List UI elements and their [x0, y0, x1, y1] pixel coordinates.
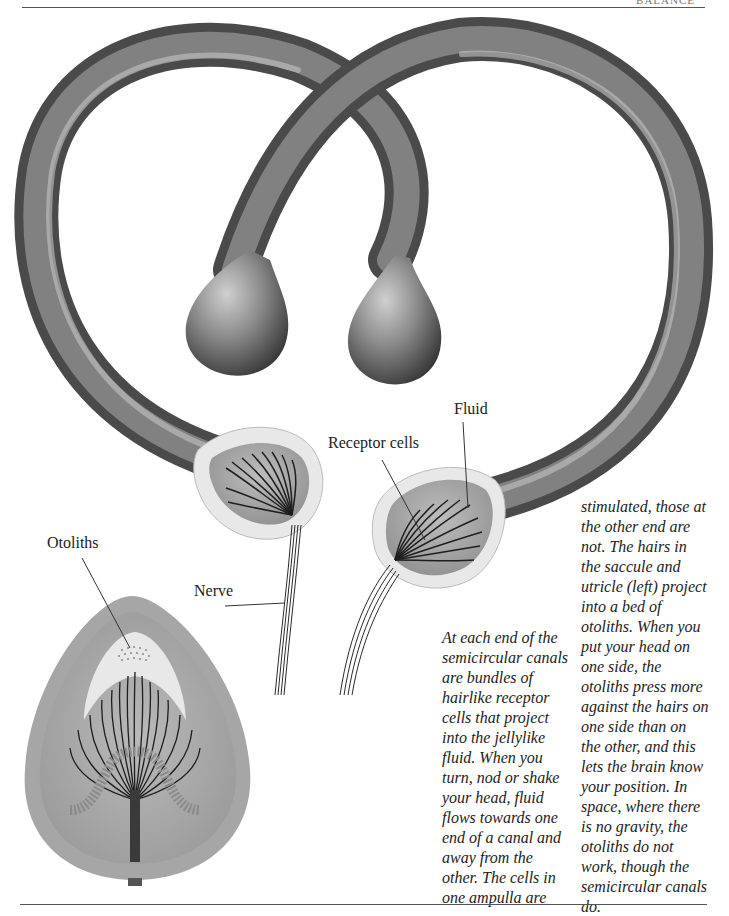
text-line: other. The cells in	[442, 868, 568, 888]
text-line: into a bed of	[581, 597, 709, 617]
text-line: your head, fluid	[442, 788, 568, 808]
text-line: do.	[581, 897, 709, 916]
text-line: one side than on	[581, 717, 709, 737]
text-line: otoliths. When you	[581, 617, 709, 637]
text-line: otoliths do not	[581, 837, 709, 857]
text-line: put your head on	[581, 637, 709, 657]
body-text-column-1: At each end of the semicircular canals a…	[442, 628, 568, 908]
text-line: your position. In	[581, 777, 709, 797]
label-fluid: Fluid	[454, 400, 488, 418]
text-line: against the hairs on	[581, 697, 709, 717]
text-line: semicircular canals	[581, 877, 709, 897]
text-line: utricle (left) project	[581, 577, 709, 597]
text-line: cells that project	[442, 708, 568, 728]
left-ampulla-cross-section	[194, 427, 323, 539]
label-receptor-cells: Receptor cells	[328, 434, 419, 452]
text-line: one side, the	[581, 657, 709, 677]
text-line: flows towards one	[442, 808, 568, 828]
text-line: stimulated, those at	[581, 497, 709, 517]
text-line: the other, and this	[581, 737, 709, 757]
body-text-column-2: stimulated, those at the other end are n…	[581, 497, 709, 916]
text-line: lets the brain know	[581, 757, 709, 777]
bottom-rule	[20, 904, 707, 905]
ampulla-bulb-left	[186, 250, 289, 376]
saccule-cross-section	[25, 596, 251, 886]
text-line: work, though the	[581, 857, 709, 877]
text-line: turn, nod or shake	[442, 768, 568, 788]
text-line: away from the	[442, 848, 568, 868]
text-line: hairlike receptor	[442, 688, 568, 708]
text-line: space, where there	[581, 797, 709, 817]
text-line: otoliths press more	[581, 677, 709, 697]
text-line: are bundles of	[442, 668, 568, 688]
text-line: one ampulla are	[442, 888, 568, 908]
text-line: the saccule and	[581, 557, 709, 577]
text-line: is no gravity, the	[581, 817, 709, 837]
text-line: the other end are	[581, 517, 709, 537]
text-line: semicircular canals	[442, 648, 568, 668]
text-line: not. The hairs in	[581, 537, 709, 557]
label-otoliths: Otoliths	[47, 534, 99, 552]
label-nerve: Nerve	[194, 582, 233, 600]
text-line: end of a canal and	[442, 828, 568, 848]
text-line: fluid. When you	[442, 748, 568, 768]
ampulla-bulb-right	[348, 255, 441, 384]
text-line: At each end of the	[442, 628, 568, 648]
text-line: into the jellylike	[442, 728, 568, 748]
right-ampulla-cross-section	[372, 467, 505, 588]
